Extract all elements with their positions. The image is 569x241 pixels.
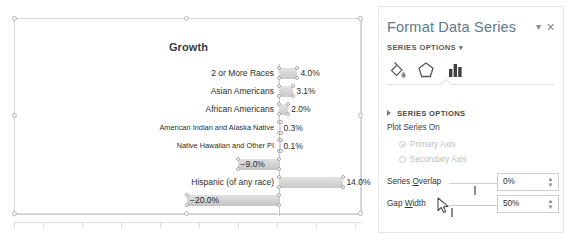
series-selection-handle[interactable] [279,149,283,153]
resize-handle-top-left[interactable] [12,16,17,21]
radio-secondary-axis-label: Secondary Axis [410,155,466,164]
chart-plot-frame[interactable]: Growth 2 or More Races4.0%Asian American… [14,18,361,214]
chart-title[interactable]: Growth [15,41,362,53]
series-selection-handle[interactable] [279,120,283,124]
plot-series-on-label: Plot Series On [387,123,440,132]
chart-category-row[interactable]: Native Hawaiian and Other PI0.1% [24,137,369,155]
series-selection-handle[interactable] [279,131,283,135]
series-selection-handle[interactable] [277,102,281,106]
active-tab-pointer [441,80,451,85]
resize-handle-middle-right[interactable] [358,113,363,118]
gap-width-label: Gap Width [387,199,426,208]
gap-width-slider[interactable] [449,205,501,206]
section-collapse-arrow[interactable] [387,110,391,116]
series-selection-handle[interactable] [277,203,281,207]
pane-tab-underline [387,84,555,85]
resize-handle-bottom-left[interactable] [12,211,17,216]
chart-bar[interactable] [279,177,343,188]
series-selection-handle[interactable] [277,185,281,189]
series-selection-handle[interactable] [295,66,299,70]
series-overlap-value[interactable]: 0% [503,177,515,186]
series-overlap-label: Series Overlap [387,177,441,186]
series-overlap-slider-thumb[interactable] [474,186,476,195]
pane-subheader[interactable]: SERIES OPTIONS▾ [387,43,463,52]
series-overlap-slider[interactable] [449,183,501,184]
resize-handle-middle-left[interactable] [12,113,17,118]
category-axis-label: Hispanic (of any race) [24,173,274,191]
effects-icon[interactable] [415,59,437,81]
category-axis-label: American Indian and Alaska Native [24,119,274,137]
pane-subheader-label: SERIES OPTIONS [387,43,456,52]
resize-handle-top-right[interactable] [358,16,363,21]
radio-primary-axis-mark[interactable] [399,141,406,148]
series-selection-handle[interactable] [277,76,281,80]
series-selection-handle[interactable] [277,112,281,116]
series-selection-handle[interactable] [341,185,345,189]
series-selection-handle[interactable] [279,138,283,142]
radio-primary-axis-label: Primary Axis [410,140,456,149]
series-overlap-control[interactable]: Series Overlap 0% ▲▼ [387,175,559,191]
series-selection-handle[interactable] [291,84,295,88]
resize-handle-bottom-center[interactable] [184,211,189,216]
series-overlap-spinner[interactable]: 0% ▲▼ [497,173,559,191]
chart-category-row[interactable]: Asian Americans3.1% [24,82,369,100]
series-selection-handle[interactable] [291,94,295,98]
gap-width-slider-thumb[interactable] [451,208,453,217]
chart-category-row[interactable]: African Americans2.0% [24,100,369,118]
series-selection-handle[interactable] [277,84,281,88]
chart-category-row[interactable]: 2 or More Races4.0% [24,64,369,82]
series-options-icon[interactable] [445,59,467,81]
data-label[interactable]: 0.3% [284,119,303,137]
series-selection-handle[interactable] [286,112,290,116]
gap-width-control[interactable]: Gap Width 50% ▲▼ [387,197,559,213]
category-axis-label: Asian Americans [24,82,274,100]
radio-primary-axis[interactable]: Primary Axis [399,140,456,149]
pane-tab-icons[interactable] [387,59,557,83]
series-overlap-stepper[interactable]: ▲▼ [547,176,554,189]
chevron-down-icon-small[interactable]: ▾ [459,44,463,51]
radio-secondary-axis-mark[interactable] [399,156,406,163]
series-selection-handle[interactable] [286,102,290,106]
chevron-down-icon[interactable]: ▾ [536,21,541,32]
section-header[interactable]: SERIES OPTIONS [397,109,465,118]
series-selection-handle[interactable] [277,157,281,161]
fill-line-icon[interactable] [387,59,409,81]
data-label[interactable]: 3.1% [296,82,315,100]
chart-category-row[interactable]: White−9.0% [24,155,369,173]
series-selection-handle[interactable] [277,66,281,70]
category-axis-label: African Americans [24,100,274,118]
series-selection-handle[interactable] [236,157,240,161]
data-label[interactable]: 4.0% [300,64,319,82]
data-label[interactable]: −9.0% [241,155,265,173]
category-axis-label: Native Hawaiian and Other PI [24,137,274,155]
chart-category-row[interactable]: Hispanic (of any race)14.0% [24,173,369,191]
series-selection-handle[interactable] [277,193,281,197]
series-selection-handle[interactable] [185,193,189,197]
series-selection-handle[interactable] [295,76,299,80]
category-axis-label: 2 or More Races [24,64,274,82]
series-selection-handle[interactable] [341,175,345,179]
gap-width-spinner[interactable]: 50% ▲▼ [497,195,559,213]
series-selection-handle[interactable] [236,167,240,171]
chart-object[interactable]: Growth 2 or More Races4.0%Asian American… [6,10,369,229]
mouse-cursor [437,197,451,215]
series-selection-handle[interactable] [277,94,281,98]
resize-handle-bottom-right[interactable] [358,211,363,216]
series-selection-handle[interactable] [277,175,281,179]
chart-category-row[interactable]: Non-Hispanic−20.0% [24,191,369,209]
resize-handle-top-center[interactable] [184,16,189,21]
chart-plot-area[interactable]: 2 or More Races4.0%Asian Americans3.1%Af… [24,64,369,214]
pane-title: Format Data Series [387,19,516,35]
worksheet-column-ruler [14,222,362,230]
data-label[interactable]: −20.0% [190,191,219,209]
close-icon[interactable]: ✕ [546,21,555,34]
gap-width-value[interactable]: 50% [503,199,519,208]
data-label[interactable]: 2.0% [291,100,310,118]
radio-secondary-axis[interactable]: Secondary Axis [399,155,466,164]
series-selection-handle[interactable] [277,167,281,171]
data-label[interactable]: 0.1% [284,137,303,155]
gap-width-stepper[interactable]: ▲▼ [547,198,554,211]
format-data-series-pane[interactable]: Format Data Series ▾ ✕ SERIES OPTIONS▾ [378,6,564,233]
chart-category-row[interactable]: American Indian and Alaska Native0.3% [24,119,369,137]
data-label[interactable]: 14.0% [346,173,370,191]
